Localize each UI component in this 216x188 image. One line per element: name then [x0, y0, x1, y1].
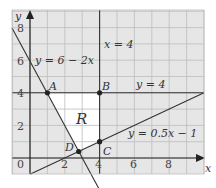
eq-x-4: x = 4 — [104, 38, 133, 51]
graph: y x 0 2 4 6 8 2 4 6 8 y = 6 − 2x x = 4 y… — [0, 0, 216, 188]
point-d — [76, 149, 81, 154]
label-a: A — [48, 80, 57, 93]
label-c: C — [103, 145, 112, 158]
point-c — [97, 139, 102, 144]
x-tick-8: 8 — [165, 158, 172, 171]
x-axis-label: x — [205, 162, 212, 175]
eq-y-6-2x: y = 6 − 2x — [34, 54, 95, 67]
x-tick-6: 6 — [130, 158, 137, 171]
eq-y-4: y = 4 — [135, 78, 165, 91]
eq-y-0.5x-1: y = 0.5x − 1 — [127, 127, 197, 140]
label-d: D — [64, 141, 74, 154]
x-tick-2: 2 — [61, 158, 68, 171]
y-tick-8: 8 — [17, 22, 24, 35]
y-tick-4: 4 — [17, 87, 24, 100]
x-tick-4: 4 — [95, 158, 102, 171]
origin-label: 0 — [17, 158, 24, 171]
y-tick-6: 6 — [17, 55, 24, 68]
y-tick-2: 2 — [17, 120, 24, 133]
label-b: B — [101, 80, 110, 93]
region-label: R — [75, 110, 87, 128]
